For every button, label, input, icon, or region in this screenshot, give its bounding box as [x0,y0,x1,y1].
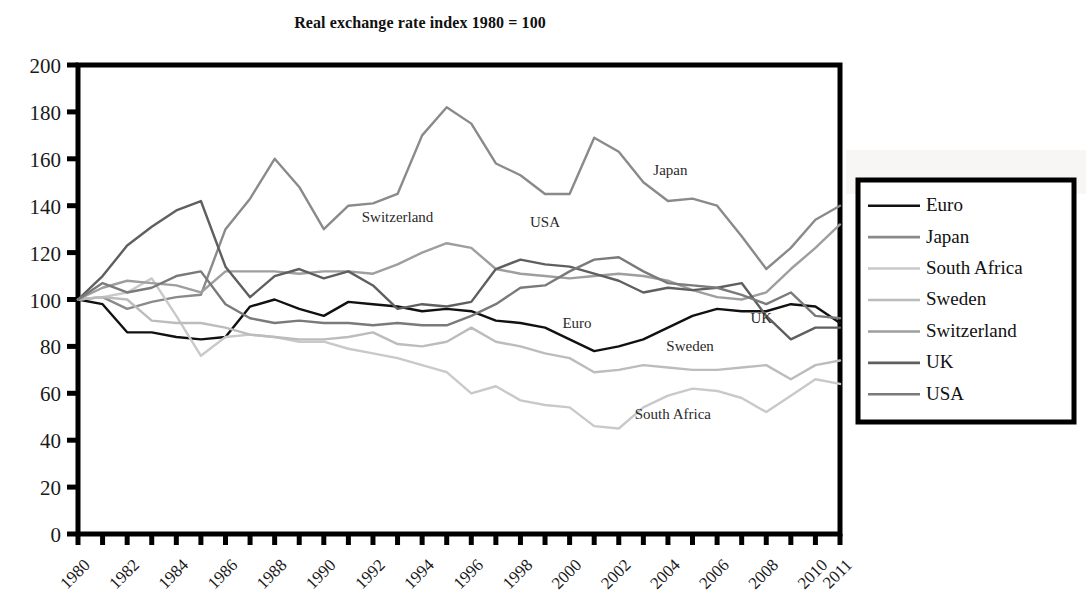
x-axis-tick-label: 2000 [548,555,585,592]
legend-label-switzerland[interactable]: Switzerland [926,320,1017,341]
x-axis-tick-label: 1986 [204,555,241,592]
x-axis-tick-label: 1992 [351,555,388,592]
annotation-uk: UK [751,310,773,326]
x-axis-tick-label: 1982 [106,555,143,592]
plot-border [78,65,840,534]
x-axis-tick-label: 1998 [499,555,536,592]
x-axis-tick-label: 1990 [302,555,339,592]
x-axis-tick-label: 2008 [745,555,782,592]
y-axis-tick-label: 80 [40,335,61,359]
chart-figure: Real exchange rate index 1980 = 100 2001… [0,0,1086,613]
y-axis-tick-label: 0 [51,523,62,547]
legend-label-usa[interactable]: USA [926,383,964,404]
plot-frame [78,65,840,534]
legend-label-sweden[interactable]: Sweden [926,288,987,309]
annotation-japan: Japan [653,162,688,178]
annotation-usa: USA [530,214,560,230]
x-axis-tick-label: 1988 [253,555,290,592]
y-axis-tick-label: 160 [30,148,62,172]
y-axis-tick-label: 100 [30,289,62,313]
series-line-japan [78,107,840,309]
y-axis-tick-label: 180 [30,101,62,125]
series-line-uk [78,201,840,339]
series-line-south-africa [78,278,840,428]
y-axis-tick-label: 60 [40,382,61,406]
annotation-south-africa: South Africa [635,406,712,422]
x-axis-tick-label: 2011 [819,555,856,592]
x-axis-tick-label: 1996 [450,555,487,592]
y-axis-tick-label: 20 [40,476,61,500]
x-axis-tick-label: 2006 [695,555,732,592]
x-axis-tick-label: 1994 [400,555,438,593]
chart-legend[interactable]: EuroJapanSouth AfricaSwedenSwitzerlandUK… [858,180,1074,422]
series-lines [78,107,840,428]
annotation-sweden: Sweden [666,338,714,354]
legend-label-japan[interactable]: Japan [926,226,970,247]
line-chart-svg: 200180160140120100806040200 198019821984… [0,0,1086,613]
x-axis-tick-label: 2004 [646,555,684,593]
y-axis-tick-label: 120 [30,242,62,266]
y-axis: 200180160140120100806040200 [30,54,79,547]
series-line-switzerland [78,224,840,299]
y-axis-tick-label: 140 [30,195,62,219]
series-annotations: JapanSwitzerlandUSAEuroUKSwedenSouth Afr… [362,162,773,422]
x-axis: 1980198219841986198819901992199419961998… [56,534,855,593]
x-axis-tick-label: 1980 [56,555,93,592]
annotation-switzerland: Switzerland [362,209,434,225]
x-axis-tick-label: 1984 [155,555,193,593]
y-axis-tick-label: 40 [40,429,61,453]
y-axis-tick-label: 200 [30,54,62,78]
x-axis-tick-label: 2002 [597,555,634,592]
legend-label-euro[interactable]: Euro [926,194,963,215]
series-line-usa [78,257,840,325]
annotation-euro: Euro [562,315,591,331]
legend-label-south-africa[interactable]: South Africa [926,257,1023,278]
legend-label-uk[interactable]: UK [926,351,954,372]
